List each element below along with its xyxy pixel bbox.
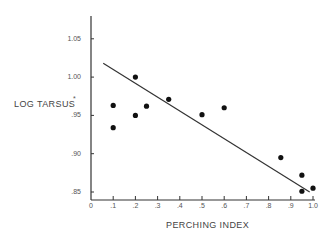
y-axis-title-superscript: * bbox=[73, 95, 76, 102]
data-point bbox=[299, 189, 304, 194]
regression-line bbox=[103, 63, 309, 192]
x-axis-title: PERCHING INDEX bbox=[166, 220, 249, 230]
data-point bbox=[166, 97, 171, 102]
data-point bbox=[111, 125, 116, 130]
x-tick-label: .3 bbox=[155, 202, 161, 209]
data-point bbox=[299, 173, 304, 178]
y-axis-title: LOG TARSUS bbox=[14, 99, 75, 109]
y-tick-label: 1.00 bbox=[67, 73, 81, 80]
x-tick-label: .7 bbox=[243, 202, 249, 209]
x-tick-label: 0 bbox=[89, 202, 93, 209]
data-series bbox=[103, 63, 315, 194]
data-point bbox=[278, 155, 283, 160]
y-tick-label: 1.05 bbox=[67, 35, 81, 42]
x-tick-label: .2 bbox=[132, 202, 138, 209]
y-tick-label: .95 bbox=[71, 111, 81, 118]
x-tick-label: .4 bbox=[177, 202, 183, 209]
y-tick-label: .90 bbox=[71, 150, 81, 157]
x-tick-label: .6 bbox=[221, 202, 227, 209]
data-point bbox=[111, 103, 116, 108]
axes bbox=[91, 16, 315, 200]
x-tick-label: .9 bbox=[288, 202, 294, 209]
data-point bbox=[310, 186, 315, 191]
data-point bbox=[199, 112, 204, 117]
y-tick-label: .85 bbox=[71, 188, 81, 195]
x-tick-label: 1.0 bbox=[308, 202, 318, 209]
y-axis-ticks: .85.90.951.001.05 bbox=[67, 35, 94, 195]
data-point bbox=[133, 113, 138, 118]
x-tick-label: .1 bbox=[110, 202, 116, 209]
x-tick-label: .8 bbox=[266, 202, 272, 209]
data-point bbox=[144, 104, 149, 109]
x-axis-ticks: 0.1.2.3.4.5.6.7.8.91.0 bbox=[89, 196, 318, 209]
scatter-chart: 0.1.2.3.4.5.6.7.8.91.0 .85.90.951.001.05… bbox=[0, 0, 334, 245]
x-tick-label: .5 bbox=[199, 202, 205, 209]
data-point bbox=[222, 105, 227, 110]
data-point bbox=[133, 75, 138, 80]
